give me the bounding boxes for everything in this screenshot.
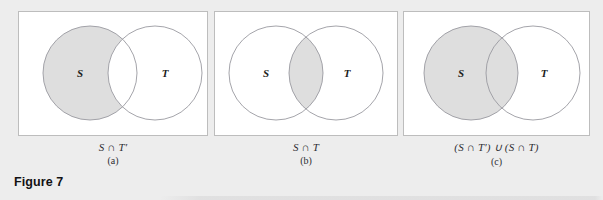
panel-c-caption: (S ∩ T′) ∪ (S ∩ T) (c) [403, 141, 590, 167]
panel-b-shaded-region [289, 26, 383, 120]
panel-b-venn-diagram: S T [214, 11, 398, 136]
panel-b-expression: S ∩ T [214, 141, 398, 153]
panel-c-label-s: S [458, 67, 464, 79]
panel-a-caption: S ∩ T′ (a) [18, 141, 208, 166]
figure-title: Figure 7 [14, 175, 63, 189]
panel-c-label-t: T [541, 67, 549, 79]
panel-c-label: (c) [403, 156, 590, 167]
panel-c-shaded-region [424, 26, 518, 120]
panel-a-label: (a) [18, 155, 208, 166]
panel-b-label: (b) [214, 155, 398, 166]
page-bleed-strip [0, 196, 603, 200]
panel-a-shaded-region [18, 11, 208, 136]
panel-a-expression: S ∩ T′ [18, 141, 208, 153]
panel-a-venn-diagram: S T [18, 11, 208, 136]
venn-panels-row: S T S ∩ T′ (a) S T [0, 0, 603, 180]
panel-b-caption: S ∩ T (b) [214, 141, 398, 166]
panel-b-label-s: S [263, 67, 269, 79]
panel-a-label-s: S [77, 67, 83, 79]
figure-7-container: S T S ∩ T′ (a) S T [0, 0, 603, 200]
panel-c-venn-diagram: S T [403, 11, 590, 136]
panel-c-expression: (S ∩ T′) ∪ (S ∩ T) [403, 141, 590, 154]
panel-b-label-t: T [344, 67, 352, 79]
